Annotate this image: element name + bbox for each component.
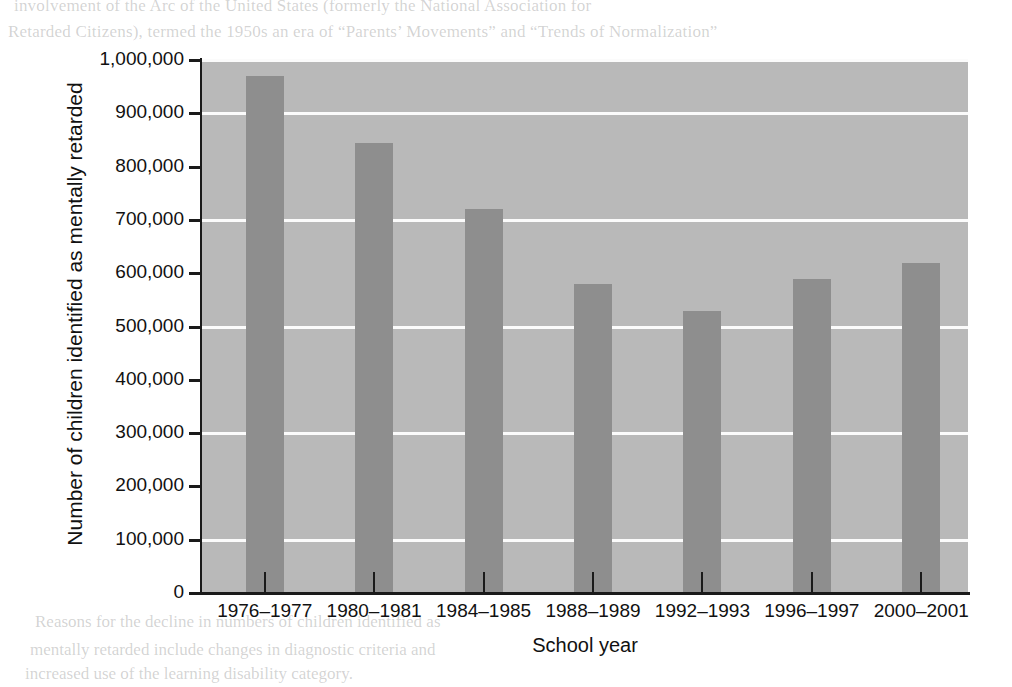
y-tick (189, 592, 202, 595)
y-tick (189, 166, 202, 169)
x-tick (592, 572, 594, 593)
y-tick (189, 326, 202, 329)
y-tick (189, 59, 202, 62)
x-tick (373, 572, 375, 593)
y-tick (189, 485, 202, 488)
gridline (202, 219, 968, 222)
bar (246, 76, 284, 593)
y-tick (189, 379, 202, 382)
bar (683, 311, 721, 593)
y-tick-label: 1,000,000 (60, 48, 184, 70)
y-tick (189, 272, 202, 275)
y-tick-label: 900,000 (60, 101, 184, 123)
x-tick-label: 2000–2001 (851, 600, 991, 622)
y-tick-label: 500,000 (60, 315, 184, 337)
x-tick (483, 572, 485, 593)
x-axis-title: School year (202, 634, 968, 657)
y-tick-label: 300,000 (60, 421, 184, 443)
x-axis-line (200, 592, 970, 595)
x-tick (701, 572, 703, 593)
plot-area (202, 60, 968, 593)
bar (902, 263, 940, 593)
y-tick-label: 400,000 (60, 368, 184, 390)
gridline (202, 59, 968, 62)
y-tick (189, 112, 202, 115)
bar-chart-figure: Number of children identified as mentall… (0, 0, 1012, 687)
y-tick-label: 700,000 (60, 208, 184, 230)
x-tick (811, 572, 813, 593)
bar (793, 279, 831, 593)
gridline (202, 112, 968, 115)
y-tick-label: 800,000 (60, 155, 184, 177)
x-tick (264, 572, 266, 593)
y-tick (189, 432, 202, 435)
bar (355, 143, 393, 593)
y-tick (189, 219, 202, 222)
bar (465, 209, 503, 593)
y-tick-label: 600,000 (60, 261, 184, 283)
y-tick-label: 0 (60, 581, 184, 603)
y-tick-label: 200,000 (60, 474, 184, 496)
x-tick (920, 572, 922, 593)
bar (574, 284, 612, 593)
y-tick-label: 100,000 (60, 528, 184, 550)
y-tick (189, 539, 202, 542)
